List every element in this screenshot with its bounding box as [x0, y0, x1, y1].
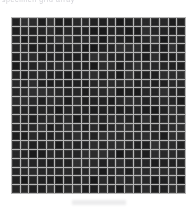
grid-cell: [134, 168, 142, 176]
grid-cell: [38, 97, 46, 105]
grid-cell: [21, 115, 29, 123]
grid-cell: [160, 62, 168, 70]
grid-cell: [134, 132, 142, 140]
grid-cell: [21, 62, 29, 70]
grid-cell: [142, 80, 150, 88]
grid-cell: [177, 124, 185, 132]
grid-cell: [116, 132, 124, 140]
grid-cell: [116, 27, 124, 35]
grid-cell: [177, 27, 185, 35]
grid-cell: [169, 168, 177, 176]
grid-cell: [73, 159, 81, 167]
grid-cell: [108, 18, 116, 26]
grid-cell: [47, 44, 55, 52]
grid-cell: [125, 132, 133, 140]
grid-cell: [55, 53, 63, 61]
grid-cell: [55, 115, 63, 123]
grid-cell: [73, 185, 81, 193]
grid-cell: [108, 106, 116, 114]
grid-cell: [90, 53, 98, 61]
grid-cell: [134, 159, 142, 167]
grid-cell: [169, 106, 177, 114]
grid-cell: [108, 132, 116, 140]
grid-cell: [142, 185, 150, 193]
grid-cell: [38, 27, 46, 35]
grid-cell: [108, 141, 116, 149]
grid-cell: [64, 62, 72, 70]
grid-cell: [73, 168, 81, 176]
grid-cell-container: [11, 17, 186, 194]
bottom-smudge-mark: [72, 200, 126, 205]
grid-cell: [29, 88, 37, 96]
grid-cell: [82, 53, 90, 61]
grid-cell: [47, 132, 55, 140]
grid-cell: [151, 176, 159, 184]
grid-cell: [82, 176, 90, 184]
grid-cell: [73, 27, 81, 35]
grid-cell: [177, 97, 185, 105]
grid-cell: [160, 97, 168, 105]
grid-cell: [29, 168, 37, 176]
grid-cell: [151, 53, 159, 61]
grid-cell: [82, 185, 90, 193]
grid-cell: [99, 132, 107, 140]
grid-cell: [169, 115, 177, 123]
grid-cell: [29, 27, 37, 35]
grid-cell: [21, 18, 29, 26]
grid-cell: [55, 80, 63, 88]
grid-cell: [12, 53, 20, 61]
grid-cell: [29, 141, 37, 149]
grid-cell: [82, 71, 90, 79]
grid-cell: [55, 185, 63, 193]
grid-cell: [160, 124, 168, 132]
grid-cell: [177, 18, 185, 26]
grid-cell: [134, 36, 142, 44]
grid-cell: [125, 88, 133, 96]
grid-cell: [82, 80, 90, 88]
grid-cell: [134, 97, 142, 105]
grid-cell: [47, 124, 55, 132]
grid-cell: [38, 53, 46, 61]
grid-cell: [82, 44, 90, 52]
grid-cell: [99, 27, 107, 35]
grid-cell: [160, 106, 168, 114]
grid-cell: [38, 141, 46, 149]
grid-cell: [169, 97, 177, 105]
grid-cell: [64, 36, 72, 44]
grid-cell: [169, 18, 177, 26]
grid-cell: [64, 27, 72, 35]
grid-cell: [21, 80, 29, 88]
grid-cell: [169, 132, 177, 140]
grid-cell: [99, 71, 107, 79]
grid-cell: [73, 44, 81, 52]
grid-cell: [21, 71, 29, 79]
grid-cell: [134, 27, 142, 35]
grid-cell: [82, 124, 90, 132]
grid-cell: [108, 168, 116, 176]
grid-cell: [90, 62, 98, 70]
grid-cell: [55, 97, 63, 105]
grid-cell: [99, 62, 107, 70]
grid-cell: [151, 62, 159, 70]
grid-cell: [177, 150, 185, 158]
grid-cell: [142, 88, 150, 96]
grid-cell: [90, 106, 98, 114]
grid-cell: [142, 159, 150, 167]
grid-cell: [47, 88, 55, 96]
grid-cell: [108, 115, 116, 123]
grid-cell: [29, 36, 37, 44]
grid-cell: [55, 141, 63, 149]
grid-cell: [108, 124, 116, 132]
grid-cell: [151, 80, 159, 88]
grid-cell: [29, 106, 37, 114]
grid-cell: [151, 44, 159, 52]
grid-cell: [90, 150, 98, 158]
grid-cell: [177, 44, 185, 52]
grid-cell: [169, 141, 177, 149]
grid-cell: [82, 168, 90, 176]
grid-cell: [108, 176, 116, 184]
grid-cell: [142, 44, 150, 52]
grid-cell: [160, 80, 168, 88]
grid-cell: [55, 36, 63, 44]
grid-cell: [21, 168, 29, 176]
